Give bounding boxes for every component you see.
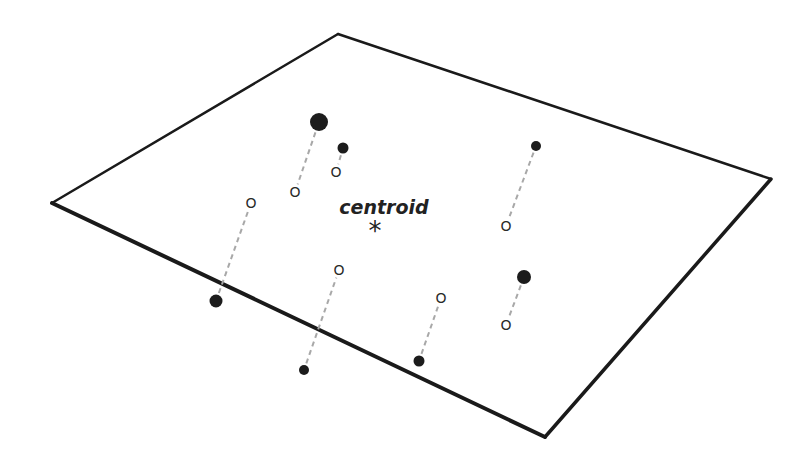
plane [52,34,771,437]
projected-point-marker: O [435,290,446,306]
projected-point-marker: O [500,317,511,333]
diagram-canvas: OOOOOOO centroid * [0,0,812,466]
centroid-asterisk-icon: * [369,216,382,246]
projected-point-marker: O [333,262,344,278]
original-point-dot [414,356,425,367]
original-point-dot [310,113,328,131]
projected-point-marker: O [500,218,511,234]
original-point-dot [299,365,309,375]
projected-point-marker: O [245,195,256,211]
projected-point-marker: O [330,164,341,180]
original-point-dot [338,143,349,154]
original-point-dot [517,270,531,284]
projected-point-marker: O [289,184,300,200]
original-point-dot [531,141,541,151]
plane-surface [52,34,771,437]
centroid-label: centroid [339,196,429,218]
original-point-dot [210,295,223,308]
